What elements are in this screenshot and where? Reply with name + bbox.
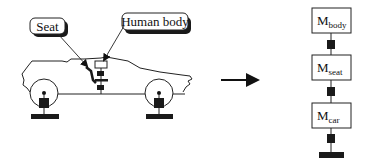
body-seat-connector xyxy=(97,71,104,76)
seat-label: Seat xyxy=(36,19,59,34)
mass-chain-model: Mbody Mseat Mcar xyxy=(312,8,351,158)
body-seat-spring-damper xyxy=(327,40,335,49)
left-wheel xyxy=(30,79,59,119)
human-body-callout: Human body xyxy=(104,13,191,60)
seat-base xyxy=(95,79,108,82)
human-body-label: Human body xyxy=(121,14,189,29)
ground-base xyxy=(319,152,344,158)
vehicle-model-diagram: Seat Human body Mbody Mseat Mcar xyxy=(0,0,377,164)
left-ground-base xyxy=(31,114,59,119)
right-wheel xyxy=(145,79,173,119)
human-body-box xyxy=(95,61,107,68)
seat-car-spring-damper xyxy=(327,87,335,96)
seat-car-connector xyxy=(97,85,104,90)
seat-occupant-stack xyxy=(86,61,108,94)
right-ground-base xyxy=(146,114,173,119)
right-wheel-spring-damper xyxy=(154,98,164,108)
car-ground-spring-damper xyxy=(327,134,335,143)
left-wheel-spring-damper xyxy=(39,98,49,108)
